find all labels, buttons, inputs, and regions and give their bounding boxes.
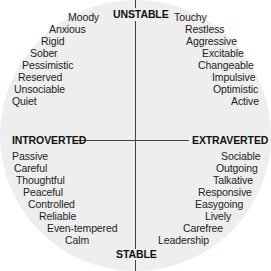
trait-sociable: Sociable (221, 150, 260, 162)
trait-talkative: Talkative (213, 174, 253, 186)
trait-restless: Restless (185, 23, 224, 35)
trait-controlled: Controlled (28, 198, 75, 210)
horizontal-axis (75, 140, 189, 141)
trait-thoughtful: Thoughtful (16, 174, 65, 186)
trait-even-tempered: Even-tempered (47, 222, 118, 234)
trait-reserved: Reserved (18, 71, 62, 83)
trait-optimistic: Optimistic (213, 83, 258, 95)
axis-label-unstable: UNSTABLE (113, 8, 169, 20)
trait-reliable: Reliable (39, 210, 76, 222)
trait-calm: Calm (65, 234, 89, 246)
trait-excitable: Excitable (202, 47, 244, 59)
trait-responsive: Responsive (198, 186, 252, 198)
trait-leadership: Leadership (158, 234, 209, 246)
trait-impulsive: Impulsive (212, 71, 255, 83)
axis-label-introverted: INTROVERTED (12, 134, 86, 146)
axis-label-extraverted: EXTRAVERTED (192, 134, 268, 146)
trait-peaceful: Peaceful (23, 186, 63, 198)
trait-outgoing: Outgoing (216, 162, 258, 174)
vertical-axis-top (135, 0, 136, 8)
trait-moody: Moody (68, 11, 99, 23)
trait-careful: Careful (14, 162, 47, 174)
trait-touchy: Touchy (174, 11, 207, 23)
vertical-axis (135, 21, 136, 249)
trait-sober: Sober (30, 47, 58, 59)
trait-unsociable: Unsociable (14, 83, 65, 95)
trait-easygoing: Easygoing (195, 198, 243, 210)
axis-label-stable: STABLE (116, 248, 157, 260)
trait-changeable: Changeable (198, 59, 254, 71)
trait-passive: Passive (12, 150, 48, 162)
trait-active: Active (231, 95, 259, 107)
trait-aggressive: Aggressive (186, 35, 237, 47)
trait-anxious: Anxious (49, 23, 86, 35)
vertical-axis-bottom (135, 260, 136, 271)
trait-pessimistic: Pessimistic (22, 59, 73, 71)
trait-lively: Lively (205, 210, 231, 222)
trait-rigid: Rigid (41, 35, 64, 47)
trait-carefree: Carefree (183, 222, 223, 234)
trait-quiet: Quiet (12, 95, 37, 107)
